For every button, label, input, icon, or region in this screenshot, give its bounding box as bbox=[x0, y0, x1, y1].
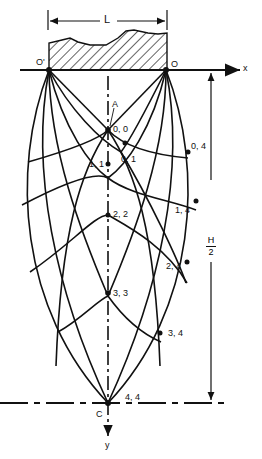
node-0-0: 0, 0 bbox=[113, 125, 128, 134]
node-0-1: 0, 1 bbox=[121, 155, 136, 164]
half-height-label: H 2 bbox=[206, 236, 216, 257]
point-c-label: C bbox=[96, 410, 103, 419]
node-3-4: 3, 4 bbox=[168, 329, 183, 338]
die-body bbox=[49, 30, 167, 70]
node-2-2: 2, 2 bbox=[113, 210, 128, 219]
slip-line-field-diagram bbox=[0, 0, 262, 459]
y-axis-label: y bbox=[105, 441, 110, 450]
half-height-denominator: 2 bbox=[206, 247, 216, 257]
node-0-4: 0, 4 bbox=[191, 142, 206, 151]
origin-right-label: O bbox=[171, 60, 178, 69]
x-axis-label: x bbox=[243, 64, 248, 73]
node-1-4: 1, 4 bbox=[175, 206, 190, 215]
origin-left-label: O' bbox=[36, 58, 45, 67]
node-1-1: 1, 1 bbox=[89, 160, 104, 169]
half-height-numerator: H bbox=[206, 236, 216, 247]
node-3-3: 3, 3 bbox=[113, 289, 128, 298]
slip-line-mesh bbox=[22, 70, 196, 403]
node-2-4: 2, 4 bbox=[166, 262, 181, 271]
node-4-4: 4, 4 bbox=[125, 393, 140, 402]
length-label: L bbox=[104, 14, 110, 25]
point-a-label: A bbox=[112, 100, 118, 109]
